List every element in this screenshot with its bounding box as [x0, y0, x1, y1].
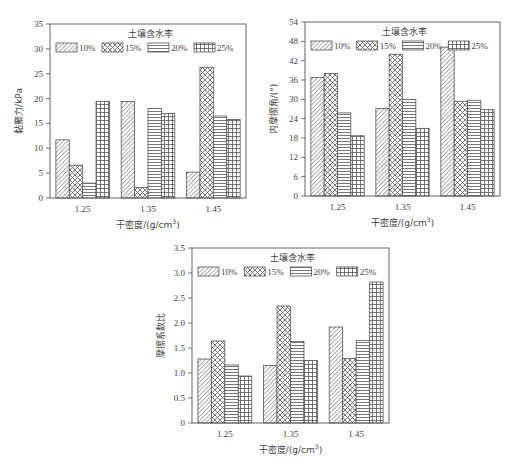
legend-label: 10%	[221, 267, 238, 277]
y-tick-label: 2.0	[174, 318, 186, 328]
legend-swatch-diag-icon	[198, 267, 219, 276]
legend-swatch-hlines-icon	[291, 267, 312, 276]
legend-label: 25%	[360, 267, 377, 277]
y-tick-label: 3.0	[174, 268, 186, 278]
x-tick-label: 1.25	[217, 429, 233, 439]
y-tick-label: 1.5	[174, 343, 186, 353]
bar-15pct-1.45	[343, 359, 356, 424]
bar-15pct-1.25	[211, 341, 224, 423]
legend-swatch-cross-icon	[244, 267, 265, 276]
bar-25pct-1.45	[370, 282, 383, 423]
y-tick-label: 2.5	[174, 293, 186, 303]
y-tick-label: 3.5	[174, 243, 186, 253]
x-tick-label: 1.45	[348, 429, 364, 439]
bar-10pct-1.35	[264, 366, 277, 424]
legend-title: 土壤含水率	[270, 252, 315, 263]
bar-25pct-1.25	[238, 376, 251, 423]
y-tick-label: 1.0	[174, 368, 186, 378]
bar-25pct-1.35	[304, 361, 317, 424]
legend-label: 15%	[267, 267, 284, 277]
legend-swatch-grid-icon	[337, 267, 358, 276]
x-tick-label: 1.35	[283, 429, 299, 439]
y-tick-label: 0	[181, 418, 186, 428]
y-axis-title: 摩擦系数比	[155, 313, 166, 358]
bar-15pct-1.35	[277, 306, 290, 423]
y-tick-label: 0.5	[174, 393, 186, 403]
bar-10pct-1.25	[198, 359, 211, 423]
bar-20pct-1.35	[291, 342, 304, 424]
legend-label: 20%	[314, 267, 331, 277]
bar-20pct-1.25	[225, 365, 238, 423]
bar-10pct-1.45	[329, 327, 342, 423]
friction-coefficient-ratio-chart: 1.251.351.4500.51.01.52.02.53.03.5摩擦系数比干…	[0, 0, 519, 469]
bar-20pct-1.45	[356, 341, 369, 424]
x-axis-title: 干密度/(g/cm3)	[259, 443, 322, 455]
